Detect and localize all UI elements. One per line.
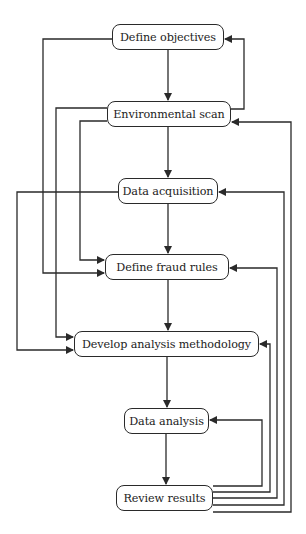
node-label: Data analysis	[129, 415, 204, 428]
node-label: Develop analysis methodology	[82, 338, 251, 351]
connector-arrow	[56, 108, 107, 337]
node-review-results: Review results	[116, 485, 213, 511]
node-label: Define fraud rules	[116, 261, 217, 274]
node-label: Define objectives	[120, 31, 216, 44]
node-data-analysis: Data analysis	[124, 408, 209, 434]
connector-arrow	[210, 420, 262, 486]
node-label: Environmental scan	[113, 108, 224, 121]
node-data-acquisition: Data acquisition	[118, 178, 218, 204]
connector-arrow	[80, 121, 107, 260]
connector-arrow	[213, 122, 291, 512]
node-label: Data acquisition	[123, 185, 214, 198]
connector-arrow	[43, 39, 112, 273]
node-define-fraud-rules: Define fraud rules	[105, 254, 229, 280]
node-environmental-scan: Environmental scan	[107, 101, 231, 127]
node-define-objectives: Define objectives	[112, 24, 224, 50]
node-label: Review results	[123, 492, 205, 505]
node-develop-analysis-methodology: Develop analysis methodology	[74, 331, 259, 357]
connector-arrow	[213, 268, 277, 498]
fraud-analysis-flowchart: Define objectives Environmental scan Dat…	[0, 0, 306, 534]
connector-arrow	[225, 39, 244, 109]
connector-arrow	[17, 192, 118, 350]
